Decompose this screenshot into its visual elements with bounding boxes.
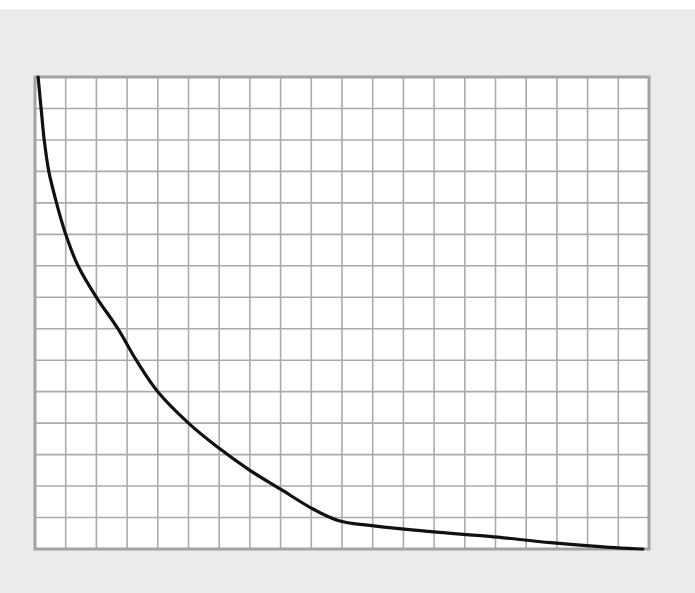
- chart: [0, 0, 695, 593]
- grid-lines: [35, 77, 649, 549]
- chart-svg: [0, 0, 695, 593]
